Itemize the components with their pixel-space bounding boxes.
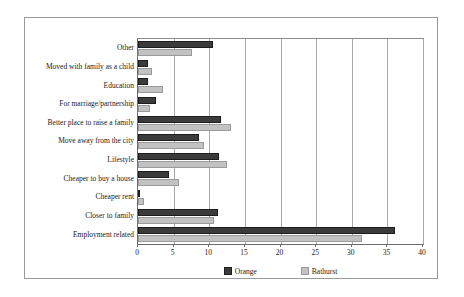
x-tick-label: 0 [135, 248, 139, 257]
bar-bathurst [138, 124, 231, 131]
category-label: Cheaper rent [0, 192, 134, 201]
chart-category-row: For marriage/partnership [138, 95, 423, 114]
chart-category-row: Employment related [138, 225, 423, 244]
plot-area: Employment relatedCloser to familyCheape… [137, 38, 424, 245]
x-tick-mark [208, 244, 209, 247]
category-label: Better place to raise a family [0, 118, 134, 127]
legend-item-orange: Orange [224, 267, 257, 276]
category-label: Education [0, 81, 134, 90]
bar-bathurst [138, 49, 192, 56]
x-tick-mark [173, 244, 174, 247]
x-tick-mark [137, 244, 138, 247]
bar-bathurst [138, 235, 362, 242]
x-tick-label: 20 [276, 248, 284, 257]
chart-category-row: Closer to family [138, 207, 423, 226]
gridline [423, 39, 424, 244]
chart-category-row: Education [138, 76, 423, 95]
bar-bathurst [138, 105, 150, 112]
bar-bathurst [138, 86, 163, 93]
chart-category-row: Lifestyle [138, 151, 423, 170]
x-tick-label: 15 [240, 248, 248, 257]
x-tick-label: 35 [383, 248, 391, 257]
bar-orange [138, 41, 213, 48]
x-tick-mark [315, 244, 316, 247]
legend-label-orange: Orange [235, 267, 257, 276]
category-label: Lifestyle [0, 155, 134, 164]
light-square-swatch [301, 267, 309, 275]
x-tick-mark [351, 244, 352, 247]
x-tick-label: 5 [171, 248, 175, 257]
chart-category-row: Cheaper to buy a house [138, 169, 423, 188]
bar-orange [138, 97, 156, 104]
bar-orange [138, 227, 395, 234]
chart-category-row: Other [138, 39, 423, 58]
bar-orange [138, 190, 140, 197]
dark-square-swatch [224, 267, 232, 275]
category-label: For marriage/partnership [0, 99, 134, 108]
x-tick-mark [280, 244, 281, 247]
x-tick-label: 10 [205, 248, 213, 257]
bar-orange [138, 60, 148, 67]
legend-label-bathurst: Bathurst [312, 267, 337, 276]
category-label: Closer to family [0, 211, 134, 220]
bar-orange [138, 78, 148, 85]
category-label: Other [0, 43, 134, 52]
bar-bathurst [138, 68, 152, 75]
bar-orange [138, 116, 221, 123]
bar-orange [138, 171, 169, 178]
x-tick-label: 40 [418, 248, 426, 257]
bar-bathurst [138, 198, 144, 205]
bar-bathurst [138, 161, 227, 168]
x-tick-mark [386, 244, 387, 247]
bar-bathurst [138, 142, 204, 149]
x-tick-label: 25 [311, 248, 319, 257]
x-tick-label: 30 [347, 248, 355, 257]
bar-orange [138, 153, 219, 160]
chart-legend: Orange Bathurst [137, 265, 424, 277]
category-label: Move away from the city [0, 136, 134, 145]
category-label: Cheaper to buy a house [0, 174, 134, 183]
chart-category-row: Cheaper rent [138, 188, 423, 207]
x-tick-mark [422, 244, 423, 247]
legend-item-bathurst: Bathurst [301, 267, 337, 276]
bar-orange [138, 209, 218, 216]
x-axis-tick-labels: 0510152025303540 [137, 247, 424, 259]
x-tick-mark [244, 244, 245, 247]
bar-bathurst [138, 217, 214, 224]
chart-category-row: Better place to raise a family [138, 114, 423, 133]
chart-category-row: Move away from the city [138, 132, 423, 151]
category-label: Employment related [0, 230, 134, 239]
chart-figure: Employment relatedCloser to familyCheape… [0, 0, 464, 297]
category-label: Moved with family as a child [0, 62, 134, 71]
bar-orange [138, 134, 199, 141]
chart-category-row: Moved with family as a child [138, 58, 423, 77]
bar-bathurst [138, 179, 179, 186]
